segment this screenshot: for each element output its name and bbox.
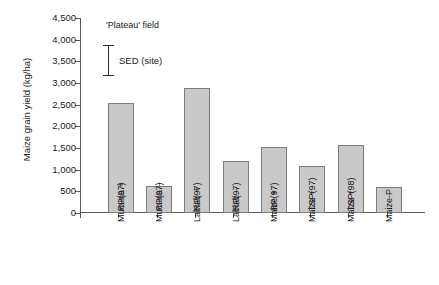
sed-vertical-line bbox=[108, 45, 109, 75]
y-axis-line bbox=[80, 18, 81, 213]
x-axis-label-line: Maize + bbox=[307, 212, 317, 222]
x-axis-label-line: Maize-P bbox=[384, 212, 394, 222]
x-axis-label-line: TSP(97) bbox=[307, 201, 317, 211]
x-axis-label-line: Mucuna – bbox=[154, 212, 164, 222]
y-axis-tick-label: 4,500 bbox=[52, 13, 76, 23]
x-axis-label-line: Maize + bbox=[269, 212, 279, 222]
y-axis-tick-label: 2,000 bbox=[52, 122, 76, 132]
x-axis-label-line: Mucuna + bbox=[116, 212, 126, 222]
x-axis-label-line: RP(97) bbox=[231, 201, 241, 211]
y-axis-tick-label: 3,000 bbox=[52, 78, 76, 88]
y-axis-tick-label: 4,000 bbox=[52, 35, 76, 45]
y-axis-tick-label: 0 bbox=[71, 208, 76, 218]
plot-area: 05001,0001,5002,0002,5003,0003,5004,0004… bbox=[80, 18, 425, 213]
y-axis-tick-label: 3,500 bbox=[52, 57, 76, 67]
x-axis-tick bbox=[80, 213, 81, 218]
y-axis-tick-label: 1,000 bbox=[52, 165, 76, 175]
y-axis-title: Maize grain yield (kg/ha) bbox=[21, 20, 32, 200]
x-axis-label-line: Maize + bbox=[346, 212, 356, 222]
x-axis-label-line: RP(97) bbox=[269, 201, 279, 211]
sed-cap-bottom bbox=[103, 75, 114, 76]
x-axis-label-line: Lablab + bbox=[192, 212, 202, 222]
y-axis-tick-label: 2,500 bbox=[52, 100, 76, 110]
sed-cap-top bbox=[103, 45, 114, 46]
y-axis-tick-label: 500 bbox=[60, 187, 76, 197]
field-annotation: 'Plateau' field bbox=[106, 20, 159, 30]
y-axis-tick-label: 1,500 bbox=[52, 143, 76, 153]
x-axis-label-line: RP(97) bbox=[154, 201, 164, 211]
x-axis-label-line: RP(97) bbox=[116, 201, 126, 211]
sed-label: SED (site) bbox=[119, 54, 162, 65]
x-axis-label-line: Lablab – bbox=[231, 212, 241, 222]
x-axis-label-line: RP(97) bbox=[192, 201, 202, 211]
x-axis-label-line: TSP(98) bbox=[346, 201, 356, 211]
bar-chart-figure: Maize grain yield (kg/ha) 05001,0001,500… bbox=[0, 0, 439, 285]
